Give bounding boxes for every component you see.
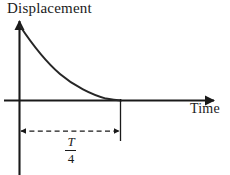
fraction-numerator: T bbox=[65, 135, 76, 149]
fraction-t-over-4: T 4 bbox=[65, 135, 76, 165]
displacement-vs-time-figure: Displacement Time T 4 bbox=[0, 0, 230, 175]
figure-canvas bbox=[0, 0, 230, 175]
x-axis-title: Time bbox=[190, 102, 220, 116]
y-axis-title: Displacement bbox=[7, 1, 92, 16]
quarter-period-label: T 4 bbox=[57, 135, 85, 165]
displacement-curve bbox=[20, 26, 121, 101]
fraction-denominator: 4 bbox=[65, 152, 76, 166]
